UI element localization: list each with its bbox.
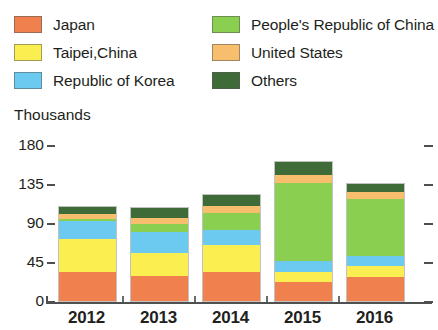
bar-segment (131, 208, 188, 218)
y-axis-tick-mark-90 (47, 223, 55, 225)
bar-segment (347, 192, 404, 199)
bar-segment (275, 261, 332, 272)
legend-label-taipei-china: Taipei,China (53, 44, 137, 61)
bar-segment (203, 272, 260, 301)
y-axis-right-tick-mark-45 (424, 262, 433, 264)
x-axis-label-2016: 2016 (335, 308, 415, 327)
axis-origin-tick (46, 296, 48, 304)
bar-2016 (346, 183, 405, 302)
bar-segment (347, 199, 404, 256)
stacked-bar-chart: Japan Taipei,China Republic of Korea Peo… (0, 0, 438, 330)
legend-item-taipei-china: Taipei,China (14, 40, 175, 65)
y-axis-right-tick-mark-90 (424, 223, 433, 225)
legend-label-united-states: United States (251, 44, 343, 61)
legend-swatch-peoples-republic-of-china (212, 16, 240, 33)
y-axis-tick-label-180: 180 (0, 137, 44, 153)
bar-segment (347, 266, 404, 276)
legend-item-japan: Japan (14, 12, 175, 37)
bar-segment (131, 253, 188, 276)
bar-segment (203, 206, 260, 213)
legend-swatch-united-states (212, 44, 240, 61)
legend-swatch-republic-of-korea (14, 72, 42, 89)
bar-segment (59, 207, 116, 214)
bar-segment (347, 256, 404, 266)
bar-segment (203, 213, 260, 230)
legend-label-others: Others (251, 72, 297, 89)
bar-segment (275, 175, 332, 183)
bar-segment (347, 184, 404, 192)
legend-column-right: People's Republic of China United States… (212, 12, 434, 96)
bar-2015 (274, 161, 333, 302)
bar-2012 (58, 206, 117, 302)
bar-segment (59, 239, 116, 271)
legend-swatch-japan (14, 16, 42, 33)
plot-area: Thousands 04590135180 201220132014201520… (0, 92, 438, 330)
bar-segment (59, 221, 116, 239)
bar-2013 (130, 207, 189, 302)
legend-item-united-states: United States (212, 40, 434, 65)
legend-swatch-taipei-china (14, 44, 42, 61)
axis-baseline (46, 302, 432, 304)
legend-item-peoples-republic-of-china: People's Republic of China (212, 12, 434, 37)
chart-legend: Japan Taipei,China Republic of Korea Peo… (0, 0, 438, 92)
y-axis-tick-label-0: 0 (0, 293, 44, 309)
y-axis-right-tick-mark-135 (424, 184, 433, 186)
y-axis-tick-mark-135 (47, 184, 55, 186)
bar-2014 (202, 194, 261, 302)
bar-segment (275, 183, 332, 261)
legend-item-others: Others (212, 68, 434, 93)
y-axis-right-tick-mark-180 (424, 145, 433, 147)
x-axis-label-2015: 2015 (263, 308, 343, 327)
legend-label-japan: Japan (53, 16, 95, 33)
legend-label-republic-of-korea: Republic of Korea (53, 72, 175, 89)
legend-column-left: Japan Taipei,China Republic of Korea (14, 12, 175, 96)
bar-segment (203, 245, 260, 272)
bar-segment (275, 272, 332, 282)
legend-item-republic-of-korea: Republic of Korea (14, 68, 175, 93)
y-axis-tick-label-45: 45 (0, 254, 44, 270)
legend-swatch-others (212, 72, 240, 89)
x-axis-label-2012: 2012 (47, 308, 127, 327)
legend-label-peoples-republic-of-china: People's Republic of China (251, 16, 434, 33)
y-axis-unit-title: Thousands (14, 106, 91, 123)
bar-segment (275, 162, 332, 175)
bar-segment (131, 232, 188, 254)
bar-segment (275, 282, 332, 301)
y-axis-tick-mark-45 (47, 262, 55, 264)
bar-segment (347, 277, 404, 301)
bar-segment (203, 230, 260, 245)
y-axis-tick-label-135: 135 (0, 176, 44, 192)
bar-segment (131, 224, 188, 232)
x-axis-label-2014: 2014 (191, 308, 271, 327)
bar-segment (59, 272, 116, 301)
x-axis-label-2013: 2013 (119, 308, 199, 327)
y-axis-tick-label-90: 90 (0, 215, 44, 231)
bar-segment (203, 195, 260, 205)
y-axis-tick-mark-180 (47, 145, 55, 147)
bar-segment (131, 276, 188, 301)
